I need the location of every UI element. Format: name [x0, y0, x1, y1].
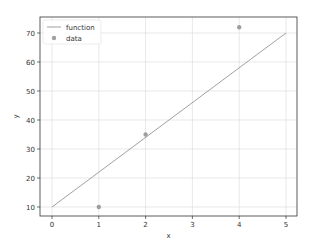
data-point	[97, 205, 101, 209]
x-tick-label: 3	[190, 221, 194, 229]
chart: 01234510203040506070xyfunctiondata	[0, 0, 314, 247]
y-tick-label: 10	[26, 204, 35, 212]
y-tick-label: 30	[26, 146, 35, 154]
axes-frame	[40, 17, 297, 216]
y-tick-label: 20	[26, 175, 35, 183]
x-axis-label: x	[166, 232, 170, 240]
legend-dot-icon	[52, 36, 56, 40]
x-tick-label: 0	[50, 221, 54, 229]
legend-data-label: data	[66, 35, 82, 43]
y-axis-label: y	[12, 114, 20, 118]
legend: functiondata	[43, 20, 101, 44]
y-tick-label: 50	[26, 88, 35, 96]
x-tick-label: 1	[97, 221, 101, 229]
x-tick-label: 5	[284, 221, 288, 229]
y-tick-label: 70	[26, 30, 35, 38]
x-tick-label: 2	[143, 221, 147, 229]
data-point	[143, 132, 147, 136]
x-axis: 012345	[50, 216, 288, 229]
legend-function-label: function	[66, 24, 95, 32]
data-point	[237, 25, 241, 29]
x-tick-label: 4	[237, 221, 242, 229]
y-tick-label: 60	[26, 59, 35, 67]
grid	[40, 17, 297, 216]
y-tick-label: 40	[26, 117, 35, 125]
y-axis: 10203040506070	[26, 30, 40, 212]
